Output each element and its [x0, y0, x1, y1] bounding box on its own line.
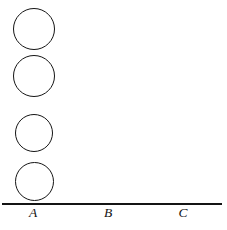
peg-label-row: A B C — [0, 205, 227, 230]
peg-label-a: A — [21, 205, 45, 221]
disk-1[interactable] — [13, 8, 55, 50]
peg-label-b: B — [96, 205, 120, 221]
disk-4[interactable] — [15, 162, 54, 201]
tower-of-hanoi-diagram: A B C — [0, 0, 227, 230]
disk-stack-area — [0, 0, 227, 203]
peg-label-c: C — [171, 205, 195, 221]
disk-3[interactable] — [15, 114, 53, 152]
disk-2[interactable] — [13, 55, 55, 97]
